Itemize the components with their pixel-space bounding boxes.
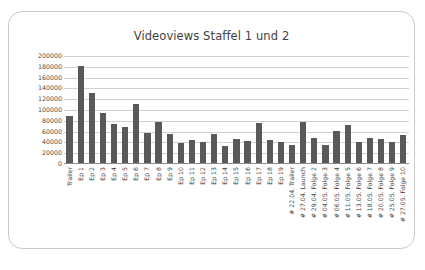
bar-slot: [275, 56, 286, 164]
bar: [100, 113, 106, 164]
x-axis-tick-label: Ep 7: [144, 167, 150, 181]
bar-slot: [131, 56, 142, 164]
bar-slot: [198, 56, 209, 164]
bar-slot: [242, 56, 253, 164]
bar-slot: [142, 56, 153, 164]
bar: [367, 138, 373, 164]
x-axis-tick-label: # 11.05. Folge 5: [345, 167, 351, 218]
x-axis-tick-label: Ep 9: [167, 167, 173, 181]
bar: [311, 138, 317, 164]
x-axis-tick-label: # 29.04. Folge 2: [311, 167, 317, 218]
x-axis-tick-label: # 27.05. Folge 10: [400, 167, 406, 222]
bar-slot: [264, 56, 275, 164]
plot-area: [64, 56, 409, 164]
x-axis-tick-label: Ep 10: [178, 167, 184, 185]
x-label-slot: Ep 2: [86, 165, 97, 249]
x-axis-tick-label: # 04.05. Folge 3: [322, 167, 328, 218]
x-label-slot: Ep 16: [242, 165, 253, 249]
x-axis-tick-label: Ep 14: [222, 167, 228, 185]
x-label-slot: Ep 11: [186, 165, 197, 249]
bar-slot: [309, 56, 320, 164]
bar-series: [64, 56, 409, 164]
chart-card: Videoviews Staffel 1 und 2 2000001800001…: [8, 11, 415, 249]
bar: [233, 139, 239, 164]
x-label-slot: # 22.04. Trailer: [287, 165, 298, 249]
y-axis-tick-label: 20000: [15, 150, 62, 156]
x-axis-tick-label: Ep 3: [100, 167, 106, 181]
x-label-slot: Ep 8: [153, 165, 164, 249]
x-axis-tick-label: Ep 15: [233, 167, 239, 185]
bar: [267, 140, 273, 164]
y-axis-tick-label: 200000: [15, 53, 62, 59]
x-axis-tick-label: Ep 2: [89, 167, 95, 181]
x-axis-tick-label: Ep 16: [245, 167, 251, 185]
x-label-slot: Ep 5: [120, 165, 131, 249]
x-axis-tick-label: Ep 4: [111, 167, 117, 181]
bar-slot: [64, 56, 75, 164]
x-label-slot: # 13.05. Folge 6: [353, 165, 364, 249]
x-axis-tick-label: Ep 6: [133, 167, 139, 181]
x-label-slot: Ep 9: [164, 165, 175, 249]
bar: [222, 146, 228, 164]
x-label-slot: # 27.04. Launch: [298, 165, 309, 249]
y-axis-tick-label: 180000: [15, 64, 62, 70]
y-axis-tick-label: 0: [15, 161, 62, 167]
y-axis-tick-label: 140000: [15, 85, 62, 91]
bar-slot: [209, 56, 220, 164]
x-axis-tick-label: # 25.05. Folge 9: [389, 167, 395, 218]
x-label-slot: # 20.05. Folge 8: [376, 165, 387, 249]
bar-slot: [342, 56, 353, 164]
bar-slot: [186, 56, 197, 164]
x-label-slot: Ep 13: [209, 165, 220, 249]
x-label-slot: Ep 14: [220, 165, 231, 249]
bar: [322, 145, 328, 164]
bar-slot: [175, 56, 186, 164]
x-label-slot: Ep 18: [264, 165, 275, 249]
bar: [155, 122, 161, 164]
bar-slot: [253, 56, 264, 164]
bar-slot: [287, 56, 298, 164]
x-axis-tick-label: Ep 11: [189, 167, 195, 185]
x-label-slot: # 04.05. Folge 3: [320, 165, 331, 249]
bar-slot: [220, 56, 231, 164]
x-axis-tick-label: Ep 8: [156, 167, 162, 181]
x-label-slot: Ep 19: [275, 165, 286, 249]
bar: [345, 125, 351, 164]
x-axis-tick-label: Ep 12: [200, 167, 206, 185]
x-axis-tick-label: # 06.05. Folge 4: [334, 167, 340, 218]
x-label-slot: Ep 1: [75, 165, 86, 249]
bar: [256, 123, 262, 164]
x-label-slot: Trailer: [64, 165, 75, 249]
x-label-slot: # 25.05. Folge 9: [387, 165, 398, 249]
plot-wrapper: 2000001800001600001400001200001000008000…: [9, 12, 414, 248]
bar-slot: [320, 56, 331, 164]
x-label-slot: Ep 6: [131, 165, 142, 249]
bar: [300, 122, 306, 164]
x-axis-tick-labels: TrailerEp 1Ep 2Ep 3Ep 4Ep 5Ep 6Ep 7Ep 8E…: [64, 165, 409, 249]
bar-slot: [120, 56, 131, 164]
bar-slot: [353, 56, 364, 164]
bar: [66, 116, 72, 164]
y-axis-tick-label: 160000: [15, 75, 62, 81]
bar: [333, 131, 339, 164]
bar-slot: [75, 56, 86, 164]
bar-slot: [231, 56, 242, 164]
y-axis-tick-labels: 2000001800001600001400001200001000008000…: [15, 51, 62, 167]
bar: [89, 93, 95, 164]
y-axis-tick-label: 80000: [15, 118, 62, 124]
x-label-slot: # 06.05. Folge 4: [331, 165, 342, 249]
x-axis-line: [64, 163, 409, 164]
x-axis-tick-label: # 22.04. Trailer: [289, 167, 295, 215]
bar: [189, 140, 195, 164]
bar: [144, 133, 150, 164]
bar-slot: [387, 56, 398, 164]
x-axis-tick-label: # 18.05. Folge 7: [367, 167, 373, 218]
bar: [211, 134, 217, 164]
y-axis-tick-label: 60000: [15, 129, 62, 135]
bar: [289, 145, 295, 164]
x-axis-tick-label: Ep 1: [78, 167, 84, 181]
y-axis-tick-label: 40000: [15, 139, 62, 145]
x-axis-tick-label: Trailer: [67, 167, 73, 186]
bar-slot: [376, 56, 387, 164]
bar: [389, 142, 395, 164]
